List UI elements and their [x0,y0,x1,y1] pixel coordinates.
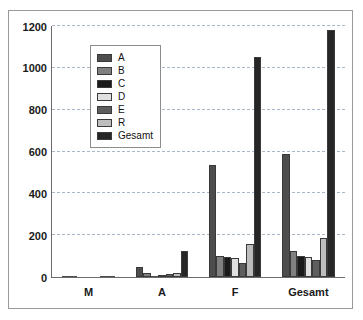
chart-frame: 020040060080010001200 MAFGesamt ABCDERGe… [8,10,353,309]
bar [166,274,174,277]
y-axis-tick-label: 400 [29,188,47,200]
bar [224,257,232,277]
y-axis-tick-label: 1200 [23,21,47,33]
gridline [52,192,345,193]
legend-item-b: B [97,64,153,77]
bar [254,57,262,277]
y-axis-tick-label: 0 [41,272,47,284]
bar [151,276,159,277]
y-axis-tick-label: 600 [29,146,47,158]
y-axis-tick-label: 800 [29,104,47,116]
legend-item-e: E [97,103,153,116]
legend-item-r: R [97,116,153,129]
bar [282,154,290,277]
bar [239,263,247,277]
legend-swatch-icon [97,54,112,62]
bar [305,257,313,277]
legend-item-gesamt: Gesamt [97,129,153,142]
bar [290,251,298,277]
y-axis-tick-label: 200 [29,230,47,242]
gridline [52,151,345,152]
bar [100,276,108,277]
bar [231,258,239,277]
legend-item-label: R [118,118,125,128]
y-axis-tick-label: 1000 [23,62,47,74]
bar [327,30,335,277]
x-axis-tick-label: M [84,286,93,298]
x-axis-tick-label: Gesamt [288,286,328,298]
bar [143,273,151,277]
legend-item-label: E [118,105,125,115]
legend-item-c: C [97,77,153,90]
bar [136,267,144,277]
bar [181,251,189,277]
chart-legend: ABCDERGesamt [90,45,161,148]
legend-swatch-icon [97,132,112,140]
bar [312,260,320,277]
gridline [52,25,345,26]
legend-item-label: D [118,92,125,102]
bar [173,273,181,277]
legend-swatch-icon [97,67,112,75]
legend-swatch-icon [97,93,112,101]
bar [320,238,328,277]
legend-item-label: Gesamt [118,131,153,141]
bar [62,276,70,277]
legend-item-label: B [118,66,125,76]
x-axis-tick-label: A [158,286,166,298]
bar [209,165,217,277]
bar [246,244,254,277]
gridline [52,234,345,235]
bar [158,275,166,277]
legend-swatch-icon [97,80,112,88]
bar [297,256,305,277]
legend-item-a: A [97,51,153,64]
bar [107,276,115,277]
legend-item-d: D [97,90,153,103]
legend-item-label: C [118,79,125,89]
legend-swatch-icon [97,106,112,114]
legend-item-label: A [118,53,125,63]
legend-swatch-icon [97,119,112,127]
bar [216,256,224,277]
x-axis-tick-label: F [232,286,239,298]
bar [70,276,78,277]
